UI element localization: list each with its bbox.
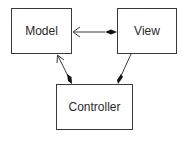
model-box: Model: [11, 8, 72, 54]
controller-box: Controller: [56, 84, 133, 130]
view-label: View: [134, 24, 160, 38]
model-label: Model: [25, 24, 58, 38]
filled-diamond-icon: [117, 74, 123, 84]
edge-controller-model: [57, 55, 72, 84]
filled-diamond-icon: [105, 30, 117, 35]
edge-view-model: [73, 27, 117, 37]
view-box: View: [117, 8, 177, 54]
controller-label: Controller: [68, 100, 120, 114]
edge-controller-view: [117, 54, 131, 84]
filled-diamond-icon: [67, 74, 72, 84]
